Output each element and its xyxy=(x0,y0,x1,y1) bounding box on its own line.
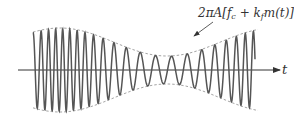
envelope-label: 2πA[fc + kfm(t)] xyxy=(197,6,294,21)
modulated-waveform-diagram: 2πA[fc + kfm(t)] t xyxy=(0,0,294,117)
axis-label-t: t xyxy=(282,62,288,77)
label-pointer-arrow xyxy=(194,22,213,36)
